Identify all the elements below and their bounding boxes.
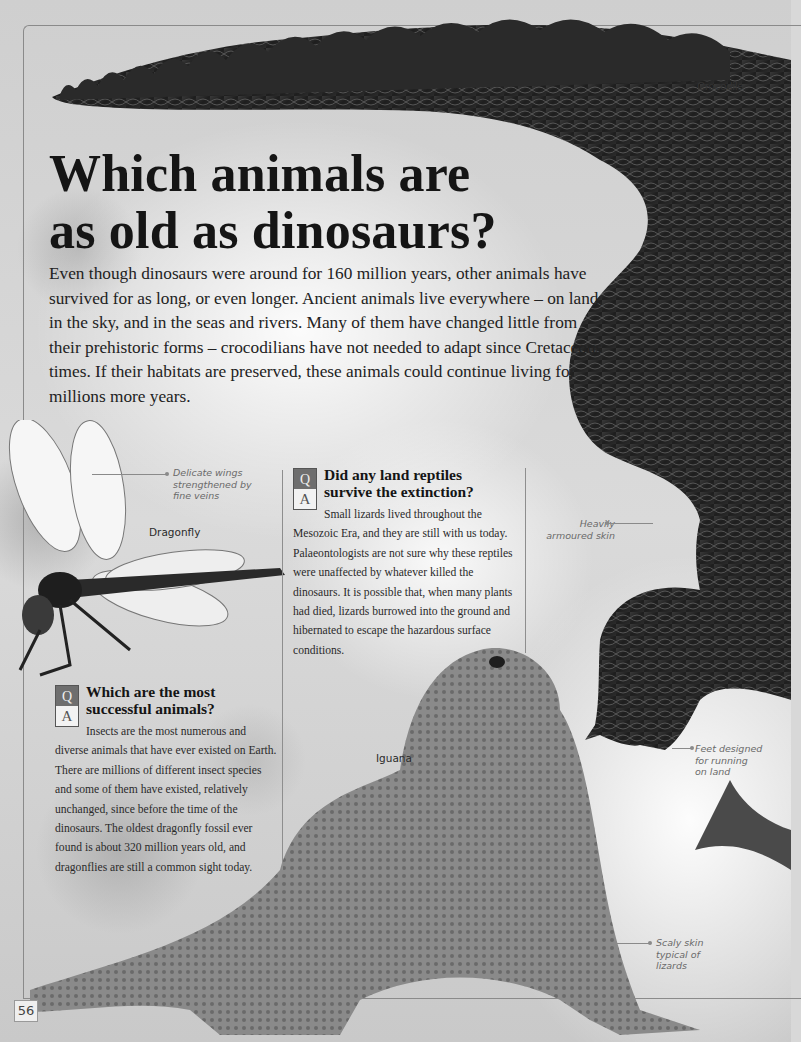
wings-leader-line [92,474,166,475]
crocodile-label: Crocodile [697,80,743,92]
dragonfly-label: Dragonfly [149,526,200,538]
wings-annotation: Delicate wings strengthened by fine vein… [173,467,252,502]
feet-leader-dot [690,746,694,750]
iguana-label: Iguana [376,752,412,764]
skin-leader-line [608,523,653,524]
qa-badge: Q A [293,468,317,510]
scaly-leader-line [606,943,650,944]
title-line-1: Which animals are [49,145,470,202]
intro-paragraph: Even though dinosaurs were around for 16… [49,262,609,409]
skin-annotation: Heavily armoured skin [540,518,615,541]
column-divider-left [282,470,283,870]
page-title: Which animals are as old as dinosaurs? [49,145,569,259]
feet-annotation: Feet designed for running on land [695,743,762,778]
qa-question: Which are the most successful animals? [86,683,215,717]
qa-badge: Q A [55,685,79,727]
title-line-2: as old as dinosaurs? [49,202,497,259]
qa-answer: Small lizards lived throughout the Mesoz… [293,505,521,660]
feet-leader-line [672,748,692,749]
scaly-annotation: Scaly skin typical of lizards [656,937,703,972]
column-divider-right [525,468,526,653]
qa-answer: Insects are the most numerous and divers… [55,722,277,877]
page-number: 56 [14,1000,38,1022]
qa-question: Did any land reptiles survive the extinc… [324,466,474,500]
scaly-leader-dot [648,941,652,945]
wings-leader-dot [165,472,169,476]
